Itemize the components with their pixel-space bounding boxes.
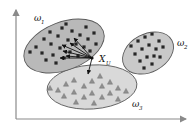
cluster-omega1-point [58,46,61,49]
cluster-omega1-point [86,37,89,40]
cluster-omega2-point [154,47,157,50]
cluster-omega2-point [136,39,139,42]
cluster-omega1-point [56,34,59,37]
cluster-omega1-point [84,25,87,28]
cluster-omega3-label-subscript: 3 [139,105,143,111]
cluster-omega2-point [150,62,153,65]
query-point-label: X [98,54,106,64]
cluster-omega2-point [142,66,145,69]
cluster-omega1-point [94,42,97,45]
cluster-omega1-point [60,26,63,29]
cluster-omega1-point [74,42,77,45]
query-point-label-subscript: U [106,60,111,66]
cluster-omega1-point [44,58,47,61]
cluster-omega2-point [147,43,150,46]
cluster-omega1-point [64,22,67,25]
cluster-omega1-point [34,45,37,48]
cluster-omega1-label-subscript: 1 [41,19,45,25]
cluster-omega2-point [133,52,136,55]
cluster-omega1-point [88,49,91,52]
cluster-omega2-point [138,59,141,62]
cluster-omega1-point [70,29,73,32]
cluster-omega1-point [28,50,31,53]
cluster-omega2-point [140,47,143,50]
cluster-omega2-point [129,44,132,47]
cluster-omega1-point [92,31,95,34]
cluster-omega1-point [66,38,69,41]
cluster-omega2-point [157,39,160,42]
cluster-omega2-point [152,54,155,57]
cluster-omega2-label-subscript: 2 [183,44,188,50]
cluster-omega2-point [145,55,148,58]
cluster-omega2-point [143,35,146,38]
diagram-canvas: ω 3 ω 2 ω 1 X U [0,0,196,129]
cluster-omega2-point [161,45,164,48]
cluster-omega2-point [150,32,153,35]
cluster-omega1-point [48,30,51,33]
cluster-omega1-point [49,42,52,45]
cluster-omega1-point [40,51,43,54]
cluster-omega1-point [78,33,81,36]
cluster-omega1-point [42,37,45,40]
query-point-marker [90,56,93,59]
cluster-diagram-figure: ω 3 ω 2 ω 1 X U [0,0,196,129]
cluster-omega1-point [51,53,54,56]
cluster-omega2-point [158,55,161,58]
cluster-omega1-point [54,61,57,64]
